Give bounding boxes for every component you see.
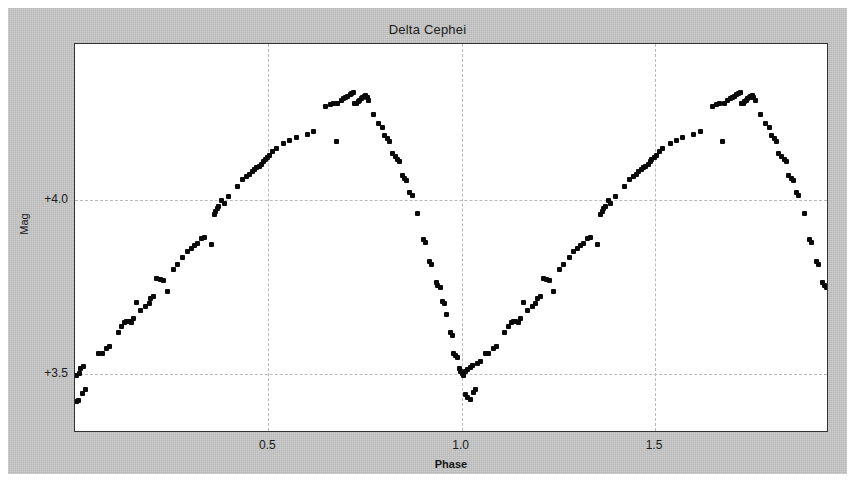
data-point — [334, 139, 339, 144]
data-point — [567, 255, 572, 260]
data-point — [791, 178, 796, 183]
data-point — [134, 300, 139, 305]
data-point — [674, 138, 679, 143]
gridline-vertical — [655, 44, 656, 431]
x-tick-label: 0.5 — [237, 438, 297, 452]
data-point — [660, 146, 665, 151]
data-point — [442, 301, 447, 306]
data-point — [294, 135, 299, 140]
data-point — [809, 240, 814, 245]
data-point — [758, 112, 763, 117]
data-point — [380, 125, 385, 130]
chart-figure: Delta Cephei +3.5+4.0 0.51.01.5 Phase Ma… — [0, 0, 855, 484]
data-point — [767, 125, 772, 130]
data-point — [603, 204, 608, 209]
data-point — [521, 300, 526, 305]
data-point — [581, 241, 586, 246]
data-point — [561, 262, 566, 267]
data-point — [429, 262, 434, 267]
data-point — [691, 132, 696, 137]
data-point — [100, 351, 105, 356]
data-point — [824, 285, 828, 290]
data-point — [478, 359, 483, 364]
data-point — [77, 371, 82, 376]
data-point — [404, 178, 409, 183]
data-point — [415, 211, 420, 216]
data-point — [202, 235, 207, 240]
data-point — [305, 132, 310, 137]
data-point — [116, 330, 121, 335]
data-point — [107, 344, 112, 349]
data-point — [287, 138, 292, 143]
data-point — [138, 308, 143, 313]
data-point — [154, 276, 159, 281]
data-point — [274, 146, 279, 151]
data-point — [525, 308, 530, 313]
data-point — [455, 355, 460, 360]
data-point — [129, 320, 134, 325]
data-point — [784, 159, 789, 164]
data-point — [151, 294, 156, 299]
data-point — [387, 139, 392, 144]
data-point — [351, 90, 356, 95]
y-axis-ticks: +3.5+4.0 — [0, 43, 68, 432]
data-point — [410, 193, 415, 198]
data-point — [816, 262, 821, 267]
gridline-horizontal — [75, 200, 827, 201]
data-point — [195, 241, 200, 246]
data-point — [473, 387, 478, 392]
data-point — [438, 285, 443, 290]
data-point — [267, 153, 272, 158]
data-point — [171, 267, 176, 272]
data-point — [81, 364, 86, 369]
data-point — [366, 98, 371, 103]
data-point — [165, 289, 170, 294]
data-point — [468, 397, 473, 402]
data-point — [533, 301, 538, 306]
data-point — [226, 194, 231, 199]
data-point — [444, 312, 449, 317]
data-point — [698, 129, 703, 134]
data-point — [588, 235, 593, 240]
x-axis-ticks: 0.51.01.5 — [74, 438, 828, 456]
data-point — [541, 276, 546, 281]
data-point — [371, 112, 376, 117]
data-point — [551, 289, 556, 294]
x-tick-label: 1.5 — [624, 438, 684, 452]
data-point — [281, 141, 286, 146]
data-point — [518, 316, 523, 321]
data-point — [235, 184, 240, 189]
data-point — [753, 98, 758, 103]
x-axis-title: Phase — [74, 458, 828, 470]
data-point — [720, 139, 725, 144]
data-point — [654, 153, 659, 158]
data-point — [423, 240, 428, 245]
data-point — [180, 255, 185, 260]
y-tick-label: +4.0 — [6, 192, 68, 206]
data-point — [538, 294, 543, 299]
gridline-vertical — [268, 44, 269, 431]
x-tick-label: 1.0 — [431, 438, 491, 452]
gridline-horizontal — [75, 374, 827, 375]
data-point — [595, 242, 600, 247]
data-point — [147, 301, 152, 306]
data-point — [219, 198, 224, 203]
data-point — [209, 242, 214, 247]
data-point — [622, 184, 627, 189]
data-point — [502, 330, 507, 335]
data-point — [494, 344, 499, 349]
data-point — [76, 398, 81, 403]
data-point — [668, 141, 673, 146]
data-point — [131, 316, 136, 321]
plot-area — [74, 43, 828, 432]
data-point — [450, 333, 455, 338]
data-point — [606, 198, 611, 203]
data-point — [397, 159, 402, 164]
data-point — [216, 204, 221, 209]
data-point — [470, 363, 475, 368]
data-point — [486, 351, 491, 356]
data-point — [613, 194, 618, 199]
data-point — [175, 262, 180, 267]
data-point — [802, 211, 807, 216]
data-point — [311, 129, 316, 134]
